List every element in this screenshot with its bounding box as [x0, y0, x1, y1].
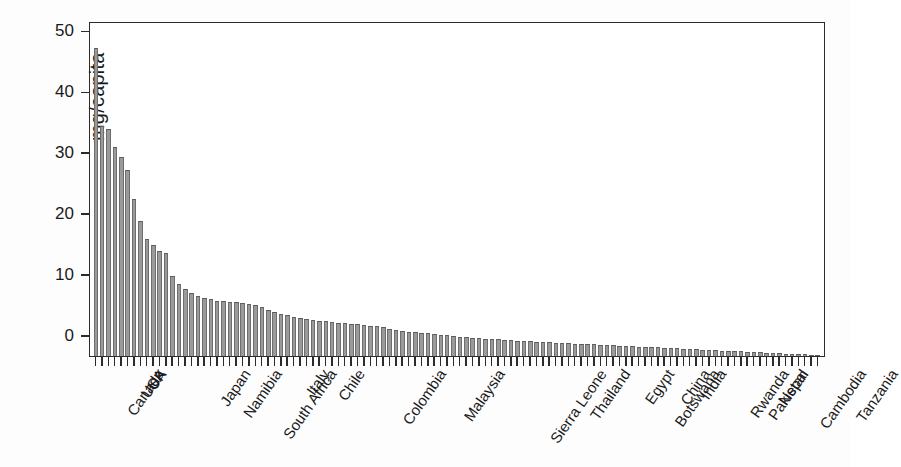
- x-tick-label: Malaysia: [460, 366, 508, 424]
- bar: [624, 346, 629, 356]
- x-tick-mark: [485, 357, 487, 366]
- x-tick-mark: [580, 357, 582, 366]
- bar: [662, 348, 667, 356]
- x-tick-mark: [350, 357, 352, 366]
- x-tick-mark: [798, 357, 800, 366]
- x-tick-mark: [587, 357, 589, 366]
- x-tick-mark: [389, 357, 391, 366]
- bar: [349, 324, 354, 356]
- bar: [483, 339, 488, 356]
- y-tick-mark: [81, 274, 90, 276]
- x-tick-mark: [504, 357, 506, 366]
- bar: [669, 348, 674, 356]
- x-tick-mark: [414, 357, 416, 366]
- y-tick-50: 50: [55, 21, 90, 41]
- x-tick-mark: [497, 357, 499, 366]
- bar: [164, 253, 169, 356]
- bar: [637, 347, 642, 356]
- bar: [94, 48, 99, 356]
- x-tick-mark: [133, 357, 135, 366]
- x-tick-mark: [472, 357, 474, 366]
- x-tick-mark: [114, 357, 116, 366]
- x-axis-labels: CanadaUSAUKJapanNamibiaSouth AfricaItaly…: [89, 366, 825, 467]
- bar: [566, 343, 571, 356]
- bar: [196, 296, 201, 356]
- bar: [426, 333, 431, 356]
- bar: [292, 317, 297, 356]
- x-tick-mark: [280, 357, 282, 366]
- bar: [381, 327, 386, 356]
- x-tick-mark: [510, 357, 512, 366]
- x-tick-mark: [248, 357, 250, 366]
- bar: [240, 303, 245, 356]
- bar: [470, 338, 475, 356]
- x-tick-mark: [746, 357, 748, 366]
- x-tick-mark: [184, 357, 186, 366]
- x-tick-mark: [267, 357, 269, 366]
- x-tick-mark: [440, 357, 442, 366]
- bar: [694, 349, 699, 356]
- x-tick-mark: [574, 357, 576, 366]
- x-axis-ticks: [89, 357, 825, 366]
- x-tick-mark: [171, 357, 173, 366]
- y-tick-label: 30: [55, 143, 81, 163]
- bar: [675, 348, 680, 356]
- bar: [605, 345, 610, 356]
- x-tick-mark: [421, 357, 423, 366]
- bar: [720, 351, 725, 356]
- bar: [451, 336, 456, 356]
- x-tick-mark: [804, 357, 806, 366]
- x-tick-mark: [529, 357, 531, 366]
- y-tick-40: 40: [55, 82, 90, 102]
- bar: [298, 318, 303, 356]
- bar: [266, 310, 271, 356]
- bar: [541, 342, 546, 356]
- y-tick-mark: [81, 92, 90, 94]
- x-tick-mark: [734, 357, 736, 366]
- bar: [387, 329, 392, 356]
- bar: [509, 340, 514, 356]
- bar: [732, 351, 737, 356]
- bar: [739, 351, 744, 356]
- bar: [355, 324, 360, 356]
- x-tick-label: Egypt: [642, 366, 678, 407]
- x-tick-mark: [810, 357, 812, 366]
- y-tick-label: 0: [65, 326, 81, 346]
- bar: [592, 344, 597, 356]
- bar: [202, 298, 207, 356]
- x-tick-mark: [663, 357, 665, 366]
- bar: [700, 350, 705, 356]
- x-tick-mark: [376, 357, 378, 366]
- bar: [362, 325, 367, 356]
- bar: [209, 299, 214, 356]
- x-tick-mark: [478, 357, 480, 366]
- bar: [771, 353, 776, 356]
- x-tick-mark: [427, 357, 429, 366]
- bar: [784, 354, 789, 356]
- bar: [253, 305, 258, 356]
- bar: [260, 307, 265, 356]
- x-tick-mark: [766, 357, 768, 366]
- y-tick-mark: [81, 335, 90, 337]
- bar: [643, 347, 648, 356]
- bar: [317, 321, 322, 356]
- bar: [707, 350, 712, 356]
- x-tick-mark: [516, 357, 518, 366]
- bar: [445, 335, 450, 356]
- x-tick-mark: [293, 357, 295, 366]
- bar: [272, 312, 277, 356]
- bar: [330, 322, 335, 356]
- x-tick-label: Cambodia: [816, 366, 869, 432]
- bar: [336, 323, 341, 357]
- x-tick-mark: [286, 357, 288, 366]
- bar: [170, 276, 175, 356]
- x-tick-mark: [727, 357, 729, 366]
- bar: [464, 337, 469, 356]
- x-tick-mark: [299, 357, 301, 366]
- x-tick-mark: [536, 357, 538, 366]
- x-tick-mark: [312, 357, 314, 366]
- y-tick-0: 0: [65, 326, 90, 346]
- x-tick-mark: [491, 357, 493, 366]
- y-tick-10: 10: [55, 265, 90, 285]
- x-tick-mark: [651, 357, 653, 366]
